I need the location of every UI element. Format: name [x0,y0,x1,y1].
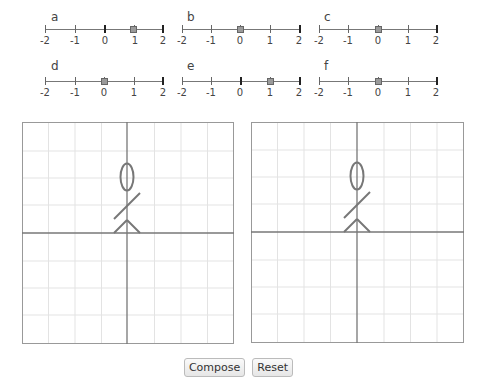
tick [182,25,183,33]
tick-label: 2 [289,87,309,98]
tick-label: -1 [201,87,221,98]
tick-label: 0 [368,35,388,46]
tick-label: -2 [309,87,329,98]
slider-e-handle[interactable] [267,78,274,85]
tick-label: 0 [95,35,115,46]
slider-b-label: b [187,10,195,24]
figure-leg-right [357,219,370,232]
tick-label: 2 [153,35,173,46]
tick-label: 1 [125,35,145,46]
tick [211,77,212,85]
tick [299,77,301,85]
slider-f-label: f [324,59,328,73]
figure-leg-left [344,219,357,232]
tick-label: 2 [426,35,446,46]
tick-label: -1 [338,35,358,46]
tick-label: -2 [309,35,329,46]
reset-button[interactable]: Reset [252,358,293,377]
tick-label: 0 [368,87,388,98]
tick [408,77,409,85]
tick-label: 1 [398,35,418,46]
slider-f-handle[interactable] [375,78,382,85]
slider-d-label: d [51,59,59,73]
tick [134,77,135,85]
tick [270,25,271,33]
tick-label: -2 [172,35,192,46]
slider-c-handle[interactable] [375,26,382,33]
tick-label: -2 [172,87,192,98]
compose-button[interactable]: Compose [184,358,245,377]
tick-label: 2 [426,87,446,98]
tick-label: 1 [398,87,418,98]
tick-label: 1 [124,87,144,98]
tick [162,25,164,33]
tick [240,77,242,85]
slider-a-label: a [51,10,58,24]
tick [408,25,409,33]
tick [436,25,438,33]
slider-a[interactable]: a -2 -1 0 1 2 [38,10,178,50]
tick [348,25,349,33]
tick-label: 1 [260,87,280,98]
tick-label: 0 [230,35,250,46]
slider-b[interactable]: b -2 -1 0 1 2 [175,10,315,50]
tick-label: -2 [35,87,55,98]
tick [182,77,183,85]
tick [45,77,46,85]
figure-leg-left [114,220,127,233]
figure-leg-right [127,220,140,233]
tick-label: 0 [94,87,114,98]
slider-d[interactable]: d -2 -1 0 1 2 [38,62,178,102]
slider-f[interactable]: f -2 -1 0 1 2 [312,62,452,102]
tick [75,25,76,33]
tick [436,77,438,85]
slider-c-label: c [324,10,331,24]
tick [104,25,106,33]
tick-label: -1 [338,87,358,98]
tick-label: -1 [65,35,85,46]
tick [162,77,164,85]
slider-b-handle[interactable] [237,26,244,33]
tick-label: 0 [230,87,250,98]
tick-label: 2 [153,87,173,98]
tick [348,77,349,85]
tick-label: 1 [260,35,280,46]
slider-a-handle[interactable] [130,26,137,33]
tick-label: -1 [201,35,221,46]
tick [75,77,76,85]
original-figure-canvas [22,122,234,344]
tick-label: -1 [65,87,85,98]
tick-label: -2 [35,35,55,46]
tick [319,77,320,85]
slider-e[interactable]: e -2 -1 0 1 2 [175,62,315,102]
slider-d-handle[interactable] [101,78,108,85]
tick [299,25,301,33]
tick [319,25,320,33]
transformed-figure-canvas [251,122,464,343]
slider-c[interactable]: c -2 -1 0 1 2 [312,10,452,50]
tick [45,25,46,33]
tick [211,25,212,33]
tick-label: 2 [289,35,309,46]
button-bar: Compose Reset [0,356,477,377]
slider-e-label: e [187,59,194,73]
